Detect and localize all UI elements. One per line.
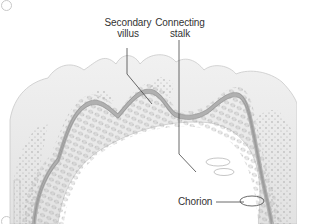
label-chorion: Chorion [178, 196, 216, 207]
label-connecting-stalk-line2: stalk [154, 28, 206, 39]
label-secondary-villus-line2: villus [102, 28, 154, 39]
label-secondary-villus-line1: Secondary [102, 17, 154, 28]
label-connecting-stalk-line1: Connecting [154, 17, 206, 28]
label-connecting-stalk: Connecting stalk [154, 17, 206, 39]
label-chorion-text: Chorion [178, 196, 212, 207]
label-secondary-villus: Secondary villus [102, 17, 154, 39]
